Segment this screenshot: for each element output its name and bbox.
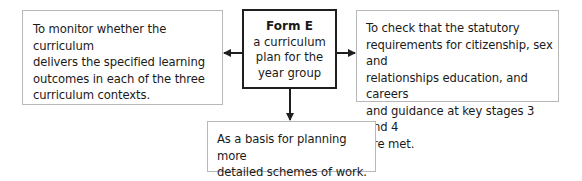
text-line: curriculum contexts. xyxy=(33,87,222,104)
text-line: detailed schemes of work. xyxy=(217,164,375,181)
text-line: are met. xyxy=(366,136,558,153)
form-e-title: Form E xyxy=(244,18,335,35)
monitor-purpose-box: To monitor whether the curriculum delive… xyxy=(22,10,223,105)
text-line: To monitor whether the curriculum xyxy=(33,21,222,54)
statutory-check-box: To check that the statutory requirements… xyxy=(356,10,559,102)
text-line: year group xyxy=(244,66,335,82)
planning-basis-box: As a basis for planning more detailed sc… xyxy=(207,121,376,172)
text-line: To check that the statutory xyxy=(366,20,558,37)
text-line: a curriculum xyxy=(244,35,335,51)
text-line: and guidance at key stages 3 and 4 xyxy=(366,103,558,136)
text-line: outcomes in each of the three xyxy=(33,71,222,88)
text-line: plan for the xyxy=(244,50,335,66)
text-line: As a basis for planning more xyxy=(217,131,375,164)
text-line: requirements for citizenship, sex and xyxy=(366,37,558,70)
form-e-box: Form E a curriculum plan for the year gr… xyxy=(242,9,337,89)
text-line: relationships education, and careers xyxy=(366,70,558,103)
text-line: delivers the specified learning xyxy=(33,54,222,71)
